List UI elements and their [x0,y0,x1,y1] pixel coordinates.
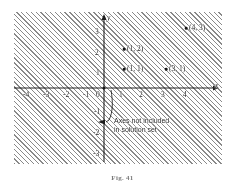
axes-and-annotations [14,12,222,164]
x-tick-label: 1 [119,91,123,99]
data-point-marker [123,68,126,71]
origin-point [103,87,106,90]
y-axis-label: y [107,13,110,22]
x-tick-label: -4 [23,91,29,99]
x-tick-label: -2 [63,91,69,99]
data-point-label: (1, 1) [127,65,143,73]
x-axis-label: x [215,81,218,90]
x-tick-label: 4 [183,91,187,99]
annotation-line-1: Axes not included [114,117,169,126]
data-point-marker [165,68,168,71]
data-point-label: (4, 3) [189,24,205,32]
annotation-arrowhead [98,120,105,125]
y-tick-label: -3 [93,150,99,158]
y-tick-label: 1 [96,69,100,77]
x-tick-label: 3 [161,91,165,99]
y-axis-arrow [101,14,106,20]
annotation-line-2: in solution set [114,126,157,135]
data-point-marker [123,48,126,51]
data-point-label: (3, 1) [169,65,185,73]
annotation-leader-line [106,90,112,122]
data-point-label: (1, 2) [127,45,143,53]
plot-area: -4 -3 -2 -1 0 1 2 3 4 3 2 1 -1 -2 -3 x y… [14,12,222,164]
data-point-marker [185,27,188,30]
x-tick-label: 0 [96,91,100,99]
y-tick-label: -2 [93,129,99,137]
x-tick-label: -1 [83,91,89,99]
figure-container: -4 -3 -2 -1 0 1 2 3 4 3 2 1 -1 -2 -3 x y… [0,0,245,183]
y-tick-label: 3 [95,28,99,36]
x-tick-label: -3 [43,91,49,99]
y-tick-label: -1 [94,108,100,116]
x-tick-label: 2 [139,91,143,99]
y-tick-label: 2 [95,49,99,57]
figure-caption: Fig. 41 [0,174,245,182]
